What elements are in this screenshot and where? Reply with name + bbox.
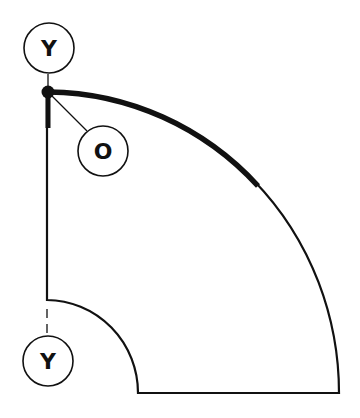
origin-o-label: O [94,139,113,164]
bottom-y-marker: Y [23,336,73,386]
diagram-canvas: Y O Y [0,0,360,418]
top-y-label: Y [40,36,58,61]
origin-o-marker: O [78,126,128,176]
origin-marker-leader [52,96,87,131]
top-y-marker: Y [24,23,74,73]
bottom-y-label: Y [39,349,57,374]
